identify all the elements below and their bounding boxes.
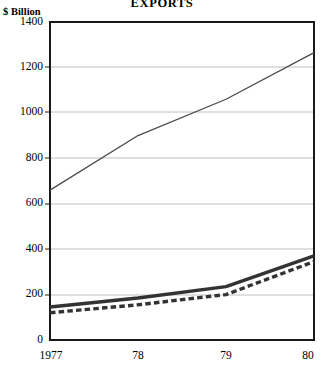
plot-canvas [0,0,324,368]
exports-line-chart: EXPORTS $ Billion 1400 1200 1000 800 600… [0,0,324,368]
gridlines [50,67,314,295]
series-world-exports [50,53,314,190]
